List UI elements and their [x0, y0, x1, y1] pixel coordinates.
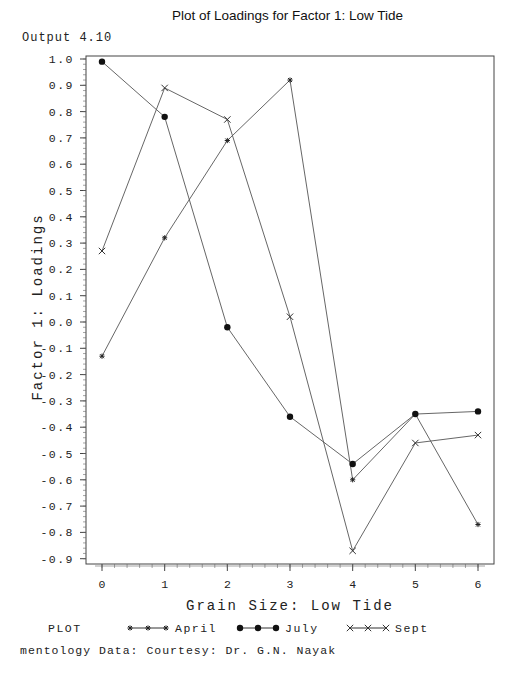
y-tick-label: 0.8 — [49, 106, 74, 119]
legend-item-july: July — [237, 622, 319, 635]
x-marker — [287, 314, 293, 320]
x-axis: 0123456 — [95, 564, 485, 591]
y-tick-label: -0.6 — [40, 474, 74, 487]
x-tick-label: 1 — [161, 578, 168, 591]
x-tick-label: 0 — [99, 578, 106, 591]
legend-label: Sept — [395, 622, 429, 635]
y-tick-label: 0.6 — [49, 158, 74, 171]
dot-marker — [99, 58, 105, 64]
x-tick-label: 4 — [349, 578, 356, 591]
legend-prefix: PLOT — [48, 622, 82, 635]
series-july — [99, 58, 481, 467]
series-april — [99, 77, 480, 527]
x-axis-label: Grain Size: Low Tide — [186, 598, 394, 614]
y-tick-label: -0.8 — [40, 526, 74, 539]
star-marker — [99, 354, 104, 359]
y-tick-label: 0.4 — [49, 211, 74, 224]
y-axis-label: Factor 1: Loadings — [30, 213, 46, 400]
star-marker — [287, 77, 292, 82]
dot-marker — [237, 625, 243, 631]
legend-label: July — [285, 622, 319, 635]
star-marker — [162, 235, 167, 240]
y-tick-label: -0.5 — [40, 448, 74, 461]
legend-label: April — [175, 622, 217, 635]
y-tick-label: 0.9 — [49, 79, 74, 92]
y-tick-label: 0.5 — [49, 185, 74, 198]
dot-marker — [412, 411, 418, 417]
star-marker — [163, 625, 168, 630]
legend: PLOTAprilJulySept — [48, 622, 429, 635]
dot-marker — [255, 625, 261, 631]
legend-item-april: April — [127, 622, 217, 635]
x-marker — [99, 248, 105, 254]
y-tick-label: 0.1 — [49, 290, 74, 303]
x-tick-label: 6 — [475, 578, 482, 591]
y-tick-label: 0.2 — [49, 263, 74, 276]
line-chart: 1.00.90.80.70.60.50.40.30.20.10.0-0.1-0.… — [0, 0, 515, 678]
dot-marker — [273, 625, 279, 631]
dot-marker — [161, 114, 167, 120]
series-sept — [99, 85, 481, 554]
x-marker — [224, 116, 230, 122]
x-marker — [161, 85, 167, 91]
x-tick-label: 3 — [287, 578, 294, 591]
x-tick-label: 5 — [412, 578, 419, 591]
x-marker — [349, 548, 355, 554]
dot-marker — [224, 324, 230, 330]
y-tick-label: 0.7 — [49, 132, 74, 145]
data-series — [99, 58, 481, 554]
y-tick-label: -0.4 — [40, 421, 74, 434]
y-tick-label: 0.0 — [49, 316, 74, 329]
x-tick-label: 2 — [224, 578, 231, 591]
dot-marker — [349, 461, 355, 467]
star-marker — [475, 522, 480, 527]
dot-marker — [287, 413, 293, 419]
y-tick-label: 1.0 — [49, 53, 74, 66]
y-tick-label: 0.3 — [49, 237, 74, 250]
y-axis: 1.00.90.80.70.60.50.40.30.20.10.0-0.1-0.… — [40, 53, 86, 566]
star-marker — [225, 138, 230, 143]
star-marker — [145, 625, 150, 630]
dot-marker — [475, 408, 481, 414]
y-tick-label: -0.7 — [40, 500, 74, 513]
footer-credit: mentology Data: Courtesy: Dr. G.N. Nayak — [20, 644, 336, 657]
star-marker — [127, 625, 132, 630]
star-marker — [350, 477, 355, 482]
legend-item-sept: Sept — [347, 622, 429, 635]
y-tick-label: -0.9 — [40, 553, 74, 566]
